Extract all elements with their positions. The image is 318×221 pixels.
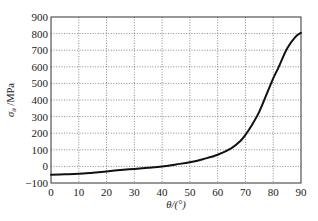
x-axis-label: θ/(°) bbox=[166, 199, 186, 211]
x-tick-label: 90 bbox=[296, 186, 308, 198]
x-tick-label: 40 bbox=[157, 186, 169, 198]
y-axis-label: σθ /MPa bbox=[5, 83, 18, 117]
x-axis-ticks: 0102030405060708090 bbox=[48, 186, 307, 198]
y-tick-label: 0 bbox=[43, 160, 49, 172]
y-tick-label: 200 bbox=[32, 127, 49, 139]
y-axis-label-unit: /MPa bbox=[5, 83, 16, 109]
x-tick-label: 80 bbox=[268, 186, 280, 198]
x-tick-label: 10 bbox=[73, 186, 85, 198]
x-tick-label: 30 bbox=[129, 186, 141, 198]
line-chart: −1000100200300400500600700800900 0102030… bbox=[0, 0, 318, 221]
y-tick-label: 800 bbox=[32, 28, 49, 40]
y-axis-ticks: −1000100200300400500600700800900 bbox=[25, 11, 48, 189]
x-tick-label: 0 bbox=[48, 186, 54, 198]
y-tick-label: 700 bbox=[32, 44, 49, 56]
x-tick-label: 60 bbox=[212, 186, 224, 198]
y-tick-label: 500 bbox=[32, 77, 49, 89]
y-tick-label: 100 bbox=[32, 144, 49, 156]
x-tick-label: 70 bbox=[240, 186, 252, 198]
stress-curve bbox=[51, 33, 301, 175]
y-tick-label: 900 bbox=[32, 11, 49, 23]
y-tick-label: 600 bbox=[32, 61, 49, 73]
y-tick-label: 300 bbox=[32, 111, 49, 123]
y-tick-label: −100 bbox=[25, 177, 48, 189]
y-tick-label: 400 bbox=[32, 94, 49, 106]
x-tick-label: 20 bbox=[101, 186, 113, 198]
x-tick-label: 50 bbox=[184, 186, 196, 198]
